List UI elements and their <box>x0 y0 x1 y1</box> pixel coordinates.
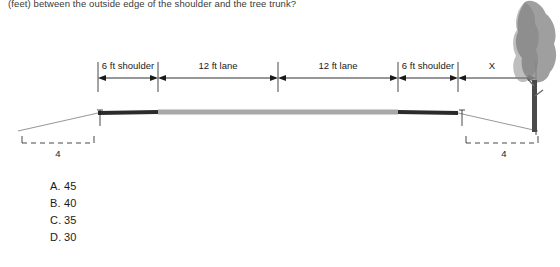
arrowhead-right <box>150 75 158 81</box>
answer-choice-b-letter: B. <box>50 195 64 212</box>
arrowhead-left <box>158 75 166 81</box>
right-side-slope <box>458 113 538 131</box>
tree-trunk <box>532 80 537 132</box>
label-right-shoulder: 6 ft shoulder <box>402 60 454 71</box>
arrowhead-left <box>278 75 286 81</box>
tree-graphic <box>513 1 556 132</box>
roadway-cross-section-diagram: 6 ft shoulder 12 ft lane 12 ft lane 6 ft… <box>0 0 560 185</box>
answer-choice-d-value: 30 <box>64 231 77 243</box>
arrowhead-right <box>390 75 398 81</box>
arrowhead-left <box>398 75 406 81</box>
answer-choice-c[interactable]: C.35 <box>50 212 250 229</box>
answer-choice-d-letter: D. <box>50 229 64 246</box>
label-unknown-x: X <box>489 60 496 71</box>
dimension-lines <box>98 62 536 135</box>
answer-choice-b[interactable]: B.40 <box>50 195 250 212</box>
answer-choice-a[interactable]: A.45 <box>50 178 250 195</box>
answer-choice-c-value: 35 <box>64 214 77 226</box>
label-left-lane: 12 ft lane <box>198 60 237 71</box>
left-side-slope <box>18 113 98 131</box>
answer-choice-b-value: 40 <box>64 197 77 209</box>
answer-choice-a-letter: A. <box>50 178 64 195</box>
answer-choices-list: A.45 B.40 C.35 D.30 <box>50 178 250 246</box>
arrowhead-left <box>458 75 466 81</box>
label-right-lane: 12 ft lane <box>318 60 357 71</box>
label-left-slope-run: 4 <box>55 148 60 159</box>
arrowhead-right <box>270 75 278 81</box>
answer-choice-c-letter: C. <box>50 212 64 229</box>
arrowhead-left <box>98 75 106 81</box>
answer-choice-a-value: 45 <box>64 180 77 192</box>
roadway-section: 4 4 <box>18 110 538 159</box>
arrowhead-right <box>450 75 458 81</box>
label-left-shoulder: 6 ft shoulder <box>102 60 154 71</box>
answer-choice-d[interactable]: D.30 <box>50 229 250 246</box>
left-shoulder-surface <box>98 112 158 113</box>
right-shoulder-surface <box>398 112 458 113</box>
label-right-slope-run: 4 <box>501 148 506 159</box>
